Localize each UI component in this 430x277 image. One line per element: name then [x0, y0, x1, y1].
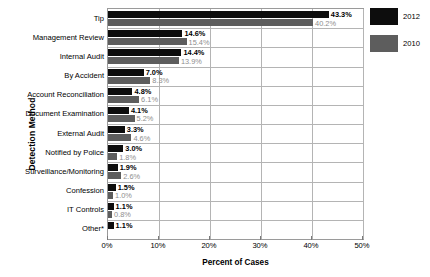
bar-2010 [108, 172, 121, 179]
bar-2010 [108, 96, 139, 103]
legend-label: 2012 [403, 12, 420, 21]
bar-2012 [108, 30, 182, 37]
bar-row: External Audit3.3%4.6% [108, 124, 363, 143]
value-label: 14.6% [184, 30, 205, 37]
value-label: 40.2% [315, 20, 336, 27]
value-label: 15.4% [189, 39, 210, 46]
bar-2012 [108, 88, 132, 95]
chart-legend: 20122010 [370, 8, 426, 62]
category-label: Other* [82, 226, 104, 234]
value-label: 4.1% [131, 107, 148, 114]
legend-swatch [370, 8, 398, 25]
value-label: 1.5% [118, 184, 135, 191]
category-label: External Audit [57, 130, 104, 138]
value-label: 5.2% [137, 115, 154, 122]
x-tick-label: 20% [201, 241, 216, 250]
tick-mark [209, 236, 210, 240]
value-label: 2.6% [123, 173, 140, 180]
value-label: 6.1% [141, 96, 158, 103]
legend-swatch [370, 35, 398, 52]
x-tick-label: 30% [252, 241, 267, 250]
x-tick-label: 50% [354, 241, 369, 250]
tick-mark [362, 236, 363, 240]
bar-row: Other*1.1% [108, 220, 363, 239]
bar-row: Account Reconciliation4.8%6.1% [108, 86, 363, 105]
bar-row: Internal Audit14.4%13.9% [108, 47, 363, 66]
value-label: 3.0% [125, 145, 142, 152]
category-label: By Accident [64, 72, 104, 80]
bar-2010 [108, 192, 113, 199]
bar-2012 [108, 222, 114, 229]
value-label: 3.3% [127, 126, 144, 133]
bar-2012 [108, 164, 118, 171]
value-label: 1.0% [115, 192, 132, 199]
category-label: Tip [94, 15, 104, 23]
value-label: 1.1% [116, 203, 133, 210]
legend-item[interactable]: 2010 [370, 35, 426, 52]
value-label: 8.3% [152, 77, 169, 84]
x-tick-label: 40% [303, 241, 318, 250]
value-label: 1.8% [119, 154, 136, 161]
legend-label: 2010 [403, 39, 420, 48]
value-label: 13.9% [181, 58, 202, 65]
tick-mark [107, 236, 108, 240]
value-label: 4.8% [134, 88, 151, 95]
bar-2010 [108, 57, 179, 64]
x-tick-label: 10% [150, 241, 165, 250]
value-label: 4.6% [133, 135, 150, 142]
x-axis-title: Percent of Cases [107, 258, 364, 267]
bar-2010 [108, 19, 313, 26]
bar-row: Surveillance/Monitoring1.9%2.6% [108, 162, 363, 181]
gridline [363, 9, 364, 239]
bar-row: Management Review14.6%15.4% [108, 28, 363, 47]
bar-2012 [108, 11, 329, 18]
tick-mark [311, 236, 312, 240]
bar-2010 [108, 211, 112, 218]
bar-2010 [108, 77, 150, 84]
category-label: Account Reconciliation [27, 91, 104, 99]
plot-area: Tip43.3%40.2%Management Review14.6%15.4%… [107, 8, 364, 240]
bar-2010 [108, 134, 131, 141]
value-label: 14.4% [183, 49, 204, 56]
category-label: Document Examination [25, 111, 104, 119]
x-axis-ticks: 0%10%20%30%40%50% [107, 241, 364, 253]
bar-row: Tip43.3%40.2% [108, 9, 363, 28]
bar-2012 [108, 49, 181, 56]
bar-2012 [108, 203, 114, 210]
x-tick-label: 0% [102, 241, 113, 250]
bar-row: IT Controls1.1%0.8% [108, 201, 363, 220]
category-label: IT Controls [67, 206, 104, 214]
value-label: 43.3% [331, 11, 352, 18]
value-label: 1.9% [120, 164, 137, 171]
bar-chart: Detection Method Tip43.3%40.2%Management… [0, 0, 430, 277]
bar-2010 [108, 38, 187, 45]
bar-2010 [108, 115, 135, 122]
bar-row: By Accident7.0%8.3% [108, 67, 363, 86]
value-label: 7.0% [146, 69, 163, 76]
value-label: 1.1% [116, 222, 133, 229]
bar-2012 [108, 69, 144, 76]
legend-item[interactable]: 2012 [370, 8, 426, 25]
tick-mark [260, 236, 261, 240]
bar-row: Notified by Police3.0%1.8% [108, 143, 363, 162]
bar-2012 [108, 145, 123, 152]
bar-2012 [108, 126, 125, 133]
bar-2010 [108, 153, 117, 160]
bar-2012 [108, 107, 129, 114]
value-label: 0.8% [114, 211, 131, 218]
bar-2012 [108, 184, 116, 191]
bar-row: Confession1.5%1.0% [108, 182, 363, 201]
category-label: Notified by Police [45, 149, 104, 157]
category-label: Management Review [33, 34, 104, 42]
category-label: Internal Audit [60, 53, 104, 61]
bar-row: Document Examination4.1%5.2% [108, 105, 363, 124]
tick-mark [158, 236, 159, 240]
category-label: Confession [66, 187, 104, 195]
y-axis-title: Detection Method [27, 54, 37, 214]
category-label: Surveillance/Monitoring [25, 168, 104, 176]
